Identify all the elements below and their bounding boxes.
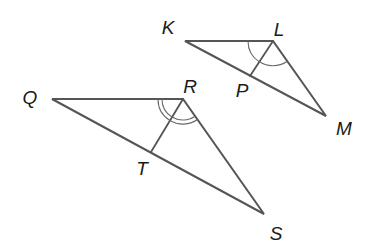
triangle-qrs: Q R S T xyxy=(23,76,283,244)
vertex-label-s: S xyxy=(270,223,283,244)
vertex-label-l: L xyxy=(274,19,285,40)
vertex-label-k: K xyxy=(162,17,176,38)
vertex-label-m: M xyxy=(336,118,352,139)
triangle-klm-outline xyxy=(185,41,326,116)
bisector-rt xyxy=(151,99,183,152)
angle-arc-plm xyxy=(259,61,288,66)
angle-arc-klp xyxy=(248,41,260,62)
triangle-qrs-outline xyxy=(52,99,264,214)
vertex-label-q: Q xyxy=(23,87,38,108)
vertex-label-r: R xyxy=(183,76,197,97)
angle-arc-trs-inner xyxy=(172,116,195,120)
point-label-p: P xyxy=(236,80,249,101)
angle-arc-qrt-outer xyxy=(158,99,170,121)
bisector-lp xyxy=(250,41,273,76)
diagram-canvas: K L M P Q R S T xyxy=(0,0,372,248)
point-label-t: T xyxy=(136,158,149,179)
